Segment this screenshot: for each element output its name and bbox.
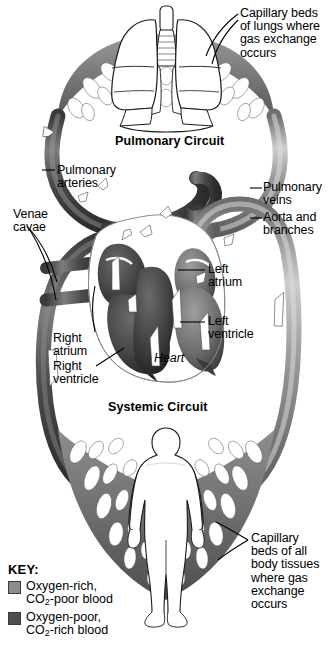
systemic-circuit-title: Systemic Circuit <box>108 400 208 414</box>
key-line2-pre-oxygen-rich: CO <box>26 592 45 606</box>
key-label-oxygen-rich: Oxygen-rich, CO2-poor blood <box>26 580 113 608</box>
callout-right-atrium: Right atrium <box>53 332 87 358</box>
key-line2-post-oxygen-poor: -rich blood <box>50 623 108 637</box>
key-label-oxygen-poor: Oxygen-poor, CO2-rich blood <box>26 611 108 639</box>
key-swatch-oxygen-poor <box>8 612 21 625</box>
key-header: KEY: <box>8 562 138 577</box>
key-sub-oxygen-poor: 2 <box>45 628 50 638</box>
callout-aorta-and-branches: Aorta and branches <box>263 211 316 237</box>
callout-pulmonary-veins: Pulmonary veins <box>263 181 322 207</box>
key-entry-oxygen-poor: Oxygen-poor, CO2-rich blood <box>6 611 138 639</box>
heart-label: Heart <box>154 352 184 365</box>
circulatory-system-diagram: Capillary beds of lungs where gas exchan… <box>0 0 332 651</box>
callout-left-ventricle: Left ventricle <box>208 315 254 341</box>
key-legend: KEY: Oxygen-rich, CO2-poor blood Oxygen-… <box>6 562 138 642</box>
key-swatch-oxygen-rich <box>8 581 21 594</box>
key-line2-post-oxygen-rich: -poor blood <box>50 592 113 606</box>
key-line1-oxygen-rich: Oxygen-rich, <box>26 579 97 593</box>
callout-venae-cavae: Venae cavae <box>13 208 48 234</box>
callout-capillary-body: Capillary beds of all body tissues where… <box>251 532 319 611</box>
key-sub-oxygen-rich: 2 <box>45 597 50 607</box>
key-entry-oxygen-rich: Oxygen-rich, CO2-poor blood <box>6 580 138 608</box>
callout-pulmonary-arteries: Pulmonary arteries <box>57 164 116 190</box>
callout-left-atrium: Left atrium <box>208 263 242 289</box>
callout-capillary-lungs: Capillary beds of lungs where gas exchan… <box>240 7 320 60</box>
pulmonary-circuit-title: Pulmonary Circuit <box>115 134 224 148</box>
callout-right-ventricle: Right ventricle <box>53 360 99 386</box>
key-line2-pre-oxygen-poor: CO <box>26 623 45 637</box>
key-line1-oxygen-poor: Oxygen-poor, <box>26 610 101 624</box>
